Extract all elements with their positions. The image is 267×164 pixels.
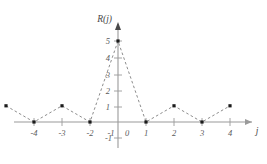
plot-canvas: -4 -3 -2 -1 0 1 2 3 4 5 4 3 2 1 -1 R(j) … [0, 0, 267, 164]
data-point-marker [172, 104, 175, 107]
y-tick-label: 4 [106, 53, 111, 63]
x-tick-label: -2 [86, 128, 94, 138]
chart-figure: -4 -3 -2 -1 0 1 2 3 4 5 4 3 2 1 -1 R(j) … [0, 0, 267, 164]
x-tick-label: 1 [144, 128, 148, 138]
data-point-marker [200, 120, 203, 123]
y-tick-labels: 5 4 3 2 1 -1 [105, 36, 112, 143]
y-tick-label: 2 [106, 86, 111, 96]
x-tick-label: -4 [30, 128, 38, 138]
data-point-marker [4, 104, 7, 107]
data-point-marker [88, 120, 91, 123]
data-point-marker [32, 120, 35, 123]
data-point-marker [116, 39, 119, 42]
y-axis-arrow-icon [115, 22, 121, 30]
data-point-marker [228, 104, 231, 107]
x-axis-title: j [254, 126, 259, 136]
x-tick-label-origin: 0 [125, 128, 130, 138]
data-point-marker [60, 104, 63, 107]
y-tick-label: 5 [106, 36, 110, 46]
x-tick-label: 2 [172, 128, 177, 138]
x-axis [14, 119, 252, 125]
x-tick-label: 3 [199, 128, 204, 138]
x-tick-label: 4 [228, 128, 233, 138]
data-point-marker [144, 120, 147, 123]
x-tick-label: -3 [58, 128, 65, 138]
y-tick-label: 1 [106, 102, 110, 112]
y-axis-title: R(j) [96, 14, 112, 25]
y-tick-label: -1 [105, 133, 112, 143]
x-axis-arrow-icon [245, 119, 252, 125]
x-tick-labels: -4 -3 -2 -1 0 1 2 3 4 [30, 128, 232, 138]
y-tick-label: 3 [105, 70, 110, 80]
